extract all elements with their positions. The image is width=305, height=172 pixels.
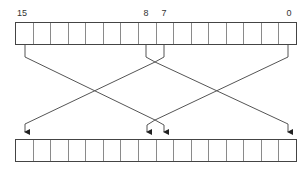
wire-to-dest-7: [155, 120, 164, 132]
wire-to-dest-8: [147, 120, 155, 132]
bit-cell: [209, 140, 227, 161]
wire-high-to-low-start: [25, 45, 155, 120]
bit-cell: [244, 140, 262, 161]
bit-cell: [262, 140, 280, 161]
wire-middle-bracket: [146, 45, 164, 62]
bit-cell: [86, 140, 104, 161]
bit-cell: [121, 140, 139, 161]
wire-low-to-high-end: [155, 45, 288, 120]
byte-swap-diagram: 15 8 7 0: [0, 0, 305, 172]
bit-cell: [34, 140, 52, 161]
wire-to-dest-15: [25, 62, 155, 132]
bit-cell: [227, 140, 245, 161]
bit-cell: [157, 140, 175, 161]
bit-cell: [192, 140, 210, 161]
bit-cell: [174, 140, 192, 161]
bit-cell: [69, 140, 87, 161]
destination-register: [15, 139, 297, 162]
bit-cell: [279, 140, 296, 161]
wire-to-dest-0: [155, 62, 288, 132]
bit-cell: [139, 140, 157, 161]
bit-cell: [51, 140, 69, 161]
bit-cell: [104, 140, 122, 161]
bit-cell: [16, 140, 34, 161]
